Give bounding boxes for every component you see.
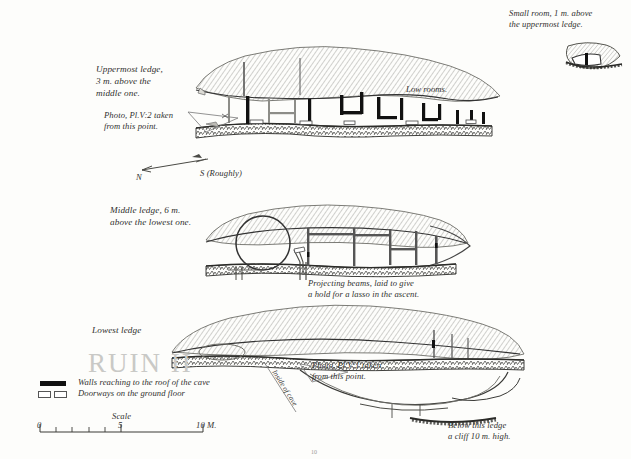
compass-south-label: S (Roughly) (200, 168, 242, 179)
annotation-photo-plv2: Photo, Pl.V:2 taken from this point. (104, 110, 219, 132)
legend-label-walls: Walls reaching to the roof of the cave (78, 377, 210, 388)
wall-solid (377, 97, 380, 119)
wall-solid (482, 112, 485, 124)
wall-thin (294, 100, 296, 123)
annotation-projecting-beams: Projecting beams, laid to give a hold fo… (308, 278, 478, 300)
wall-thin (268, 99, 270, 123)
wall-solid (456, 110, 459, 124)
scale-tick-10: 10 M. (196, 420, 217, 431)
annotation-uppermost-ledge: Uppermost ledge, 3 m. above the middle o… (96, 64, 206, 99)
wall-thin (268, 112, 294, 114)
wall-solid (422, 118, 438, 121)
wall-solid (400, 98, 403, 120)
legend-swatch-doorways-a (38, 391, 51, 398)
wall-solid (340, 111, 362, 114)
compass-arrow (142, 154, 208, 172)
legend-swatch-walls (40, 381, 66, 386)
small-room-inset (566, 43, 622, 69)
compass-north-label: N (136, 172, 142, 183)
doorway (466, 120, 476, 123)
scale-tick-0: 0 (37, 420, 41, 431)
ruin-watermark: RUIN II (88, 348, 193, 379)
plate-number: 10 (311, 449, 317, 455)
wall-solid (308, 99, 311, 124)
middle-ledge-section (206, 205, 470, 280)
annotation-below-this-ledge: Below this ledge a cliff 10 m. high. (448, 420, 578, 442)
annotation-middle-ledge: Middle ledge, 6 m. above the lowest one. (110, 205, 230, 229)
wall-thin (228, 95, 230, 123)
wall-solid (377, 116, 397, 119)
doorway (250, 120, 263, 124)
uppermost-ledge-section (188, 47, 500, 138)
legend-label-doorways: Doorways on the ground floor (78, 388, 185, 399)
scale-tick-5: 5 (118, 420, 122, 431)
annotation-photo-plv1: Photo, Pl.V:1 taken from this point. (312, 360, 432, 382)
wall-solid (246, 96, 249, 124)
doorway (300, 121, 312, 124)
doorway (344, 121, 355, 124)
wall-solid (360, 92, 363, 114)
wall-solid (438, 104, 441, 120)
annotation-small-room: Small room, 1 m. above the uppermost led… (509, 8, 624, 30)
annotation-low-rooms: Low rooms. (406, 84, 447, 95)
annotation-lowest-ledge: Lowest ledge (92, 325, 141, 337)
legend-swatch-doorways-b (54, 391, 67, 398)
doorway (406, 121, 418, 124)
